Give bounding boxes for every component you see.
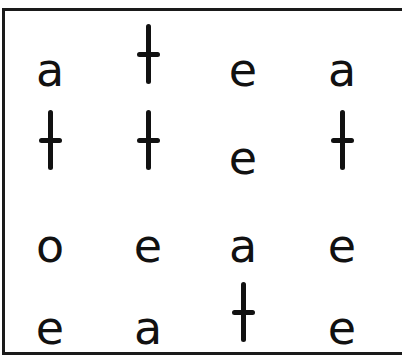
letter-cell	[118, 90, 178, 170]
letter-cell: a	[213, 180, 273, 260]
letter-t-crossbar	[331, 138, 354, 143]
letter-cell: e	[312, 262, 372, 342]
letter-t-glyph	[232, 282, 254, 342]
letter-t-crossbar	[137, 138, 160, 143]
letter-a-glyph: a	[328, 47, 356, 93]
letter-cell: a	[118, 262, 178, 342]
letter-cell	[213, 262, 273, 342]
letter-t-crossbar	[232, 310, 255, 315]
letter-e-glyph: e	[36, 305, 64, 351]
letter-e-glyph: e	[328, 305, 356, 351]
letter-t-glyph	[137, 110, 159, 170]
letter-cell: a	[20, 4, 80, 84]
letter-cell: e	[20, 262, 80, 342]
letter-t-crossbar	[137, 52, 160, 57]
letter-t-glyph	[39, 110, 61, 170]
letter-cell: a	[312, 4, 372, 84]
letter-cell: e	[118, 180, 178, 260]
letter-t-crossbar	[39, 138, 62, 143]
letter-cell: e	[213, 92, 273, 172]
letter-t-glyph	[137, 24, 159, 84]
letter-cell: o	[20, 180, 80, 260]
letter-a-glyph: a	[36, 47, 64, 93]
letter-t-glyph	[331, 110, 353, 170]
letter-cell	[118, 4, 178, 84]
letter-cell	[20, 90, 80, 170]
letter-e-glyph: e	[229, 135, 257, 181]
letter-cell: e	[213, 4, 273, 84]
letter-cell: e	[312, 180, 372, 260]
letter-e-glyph: e	[229, 47, 257, 93]
letter-a-glyph: a	[134, 305, 162, 351]
letter-cell	[312, 90, 372, 170]
